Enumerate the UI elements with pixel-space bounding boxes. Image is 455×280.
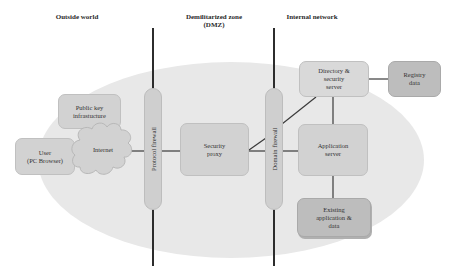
internet-label: Internet [80, 146, 126, 153]
existing-application-box[interactable]: Existing application & data [297, 198, 371, 237]
security-proxy-box[interactable]: Security proxy [180, 123, 249, 176]
registry-label-line2: data [403, 79, 425, 87]
directory-label-line2: security [318, 75, 350, 83]
existing-label-line1: Existing [316, 206, 352, 214]
existing-label-line3: data [316, 222, 352, 230]
directory-label-line3: server [318, 83, 350, 91]
existing-label-line2: application & [316, 214, 352, 222]
application-server-box[interactable]: Application server [298, 124, 368, 176]
security-proxy-label-line2: proxy [204, 150, 226, 158]
directory-label-line1: Directory & [318, 67, 350, 75]
security-proxy-label-line1: Security [204, 142, 226, 150]
app-server-label-line1: Application [318, 142, 349, 150]
directory-server-box[interactable]: Directory & security server [299, 61, 369, 97]
registry-data-box[interactable]: Registry data [388, 61, 441, 97]
app-server-label-line2: server [318, 150, 349, 158]
registry-label-line1: Registry [403, 71, 425, 79]
